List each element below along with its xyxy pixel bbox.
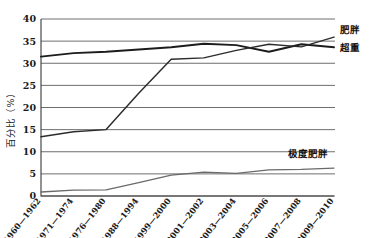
- series-label-肥胖: 肥胖: [340, 24, 360, 35]
- x-axis-tick-labels: 1960—19621971—19741976—19801988—19941999…: [1, 196, 336, 238]
- y-axis-title: 百分比（%）: [5, 88, 16, 147]
- y-tick-label: 35: [23, 36, 36, 47]
- y-tick-label: 20: [23, 102, 37, 113]
- y-tick-label: 25: [23, 80, 36, 91]
- series-label-极度肥胖: 极度肥胖: [288, 148, 328, 159]
- series-line-2: [41, 168, 334, 192]
- y-tick-label: 5: [29, 168, 36, 179]
- x-tick-label-group: 1960—1962: [1, 196, 43, 238]
- y-tick-label: 30: [23, 58, 37, 69]
- chart-figure: 0510152025303540 百分比（%） 超重肥胖极度肥胖 1960—19…: [0, 0, 374, 238]
- x-tick-label: 1960—1962: [1, 196, 43, 238]
- y-tick-label: 15: [23, 124, 36, 135]
- series-label-超重: 超重: [339, 42, 360, 53]
- y-axis-tick-labels: 0510152025303540: [23, 13, 37, 201]
- line-chart-canvas: 0510152025303540 百分比（%） 超重肥胖极度肥胖 1960—19…: [0, 0, 374, 238]
- data-series-group: [41, 37, 334, 192]
- y-tick-label: 10: [23, 146, 37, 157]
- y-tick-label: 40: [23, 13, 37, 24]
